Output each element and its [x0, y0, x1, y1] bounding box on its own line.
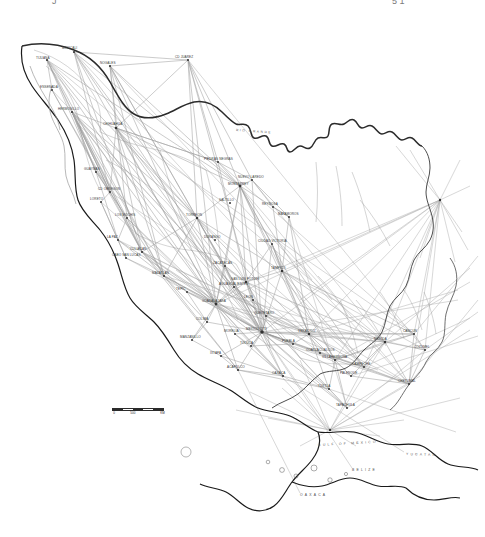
place-label: AGUASCALIENTES [219, 283, 248, 286]
place-label: PIEDRAS NEGRAS [204, 158, 233, 161]
place-label: LORETO [90, 198, 103, 201]
place-label: OAXACA [272, 372, 286, 375]
place-label: CAMPECHE [352, 363, 370, 366]
place-label: MAZATLAN [152, 272, 169, 275]
place-label: TIJUANA [36, 57, 50, 60]
place-label: TORREON [186, 214, 202, 217]
place-label: QUERETARO [254, 312, 274, 315]
place-label: SALTILLO [219, 199, 234, 202]
place-label: DURANGO [204, 236, 221, 239]
place-label: TAMPICO [271, 267, 286, 270]
place-label: MONTERREY [228, 183, 249, 186]
place-label: PALENQUE [340, 372, 357, 375]
place-label: VERACRUZ [298, 330, 316, 333]
region-label: BELIZE [352, 468, 377, 472]
place-label: TOLUCA [240, 342, 253, 345]
place-label: CD OBREGON [98, 188, 120, 191]
place-label: CIUDAD VICTORIA [258, 240, 287, 243]
place-label: CABO SAN LUCAS [112, 254, 141, 257]
scale-seg-5 [153, 409, 163, 410]
place-label: ZACATECAS [213, 262, 232, 265]
scale-label-start: 0 [113, 411, 115, 415]
place-label: CHIHUAHUA [103, 123, 122, 126]
place-label: COLIMA [196, 318, 208, 321]
place-label: SAN LUIS POTOSI [231, 278, 259, 281]
route-network-layer [47, 52, 425, 408]
scale-seg-4 [143, 409, 153, 410]
place-label: ENSENADA [40, 86, 58, 89]
place-label: GUAYMAS [84, 168, 100, 171]
place-label: LEON [244, 296, 253, 299]
place-label: MEXICO CITY [246, 328, 267, 331]
place-label: LA PAZ [107, 236, 118, 239]
scale-label-end: KM [160, 411, 165, 415]
long-haul-route-layer [47, 52, 478, 493]
scale-seg-2 [123, 409, 133, 410]
place-label: PUEBLA [282, 340, 295, 343]
place-label: LOS MOCHIS [115, 214, 135, 217]
place-label: IXTAPA [210, 352, 221, 355]
place-label: CANCUN [403, 330, 417, 333]
place-label: NOGALES [100, 62, 116, 65]
place-label: VILLAHERMOSA [322, 356, 347, 359]
scale-seg-3 [133, 409, 143, 410]
place-label: TAPACHULA [336, 404, 355, 407]
scale-bar: 0 500 KM [112, 408, 164, 417]
place-label: NUEVO LAREDO [238, 176, 264, 179]
place-label: CHETUMAL [398, 380, 416, 383]
scale-seg-1 [113, 409, 123, 410]
place-label: COATZACOALCOS [306, 349, 335, 352]
place-label: COZUMEL [414, 346, 430, 349]
place-label: MANZANILLO [180, 336, 201, 339]
map-figure: J 5 1 [0, 0, 485, 537]
scale-label-mid: 500 [130, 411, 135, 415]
map-canvas [0, 0, 485, 537]
place-label: MERIDA [374, 338, 387, 341]
place-label: MEXICALI [62, 47, 77, 50]
place-label: GUADALAJARA [202, 300, 226, 303]
place-label: TUXTLA [318, 385, 330, 388]
scale-bar-ticks: 0 500 KM [112, 411, 164, 417]
place-label: CULIACAN [130, 248, 146, 251]
place-label: ACAPULCO [227, 366, 245, 369]
place-label: TEPIC [176, 288, 186, 291]
place-label: REYNOSA [262, 203, 278, 206]
place-label: HERMOSILLO [58, 108, 79, 111]
place-label: MATAMOROS [278, 213, 299, 216]
region-label: OAXACA [300, 493, 327, 497]
place-label: MORELIA [224, 330, 239, 333]
place-label: CD JUAREZ [175, 56, 193, 59]
